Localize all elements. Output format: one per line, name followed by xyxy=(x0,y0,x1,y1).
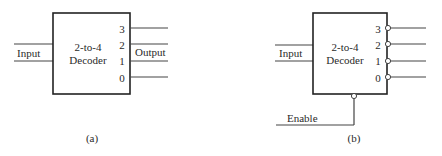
enable-inversion-bubble-icon xyxy=(351,93,356,98)
enable-label: Enable xyxy=(287,112,318,124)
output-label: Output xyxy=(135,46,166,58)
diagram-b: Input Enable 2-to-4 Decoder 3 2 1 0 (b) xyxy=(275,13,426,145)
inversion-bubble-icon xyxy=(385,74,390,79)
inversion-bubble-icon xyxy=(385,41,390,46)
inversion-bubble-icon xyxy=(385,25,390,30)
pin-label-3: 3 xyxy=(119,23,125,35)
input-label: Input xyxy=(17,47,40,59)
pin-label-3: 3 xyxy=(375,23,381,35)
pin-label-0: 0 xyxy=(375,72,381,84)
diagram-a: Input 2-to-4 Decoder 3 2 1 0 Output (a) xyxy=(14,13,168,145)
caption-a: (a) xyxy=(86,132,99,145)
pin-label-2: 2 xyxy=(375,39,381,51)
pin-label-1: 1 xyxy=(375,55,381,67)
block-title-line1: 2-to-4 xyxy=(75,41,102,53)
input-label: Input xyxy=(279,47,302,59)
block-title-line2: Decoder xyxy=(326,54,364,66)
pin-label-0: 0 xyxy=(119,72,125,84)
block-title-line2: Decoder xyxy=(69,54,107,66)
caption-b: (b) xyxy=(348,132,361,145)
pin-label-2: 2 xyxy=(119,39,125,51)
block-title-line1: 2-to-4 xyxy=(332,41,359,53)
inversion-bubble-icon xyxy=(385,58,390,63)
pin-label-1: 1 xyxy=(119,55,125,67)
decoder-diagrams: Input 2-to-4 Decoder 3 2 1 0 Output (a) … xyxy=(0,0,442,156)
